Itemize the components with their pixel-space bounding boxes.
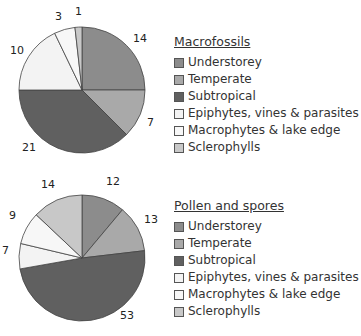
legend-item-macrophytes: Macrophytes & lake edge — [174, 122, 359, 139]
legend-item-epiphytes: Epiphytes, vines & parasites — [174, 105, 359, 122]
slice-label-macrophytes: 9 — [9, 209, 16, 222]
slice-label-understorey: 12 — [106, 175, 120, 188]
legend-item-understorey: Understorey — [174, 54, 359, 71]
slice-label-understorey: 14 — [133, 32, 147, 45]
swatch-icon — [174, 109, 184, 119]
legend-item-temperate: Temperate — [174, 235, 359, 252]
swatch-icon — [174, 58, 184, 68]
swatch-icon — [174, 307, 184, 317]
slice-label-subtropical: 53 — [120, 309, 134, 322]
swatch-icon — [174, 239, 184, 249]
legend-item-subtropical: Subtropical — [174, 88, 359, 105]
slice-label-temperate: 13 — [144, 213, 158, 226]
slice-label-sclerophylls: 1 — [75, 5, 82, 18]
legend-title: Macrofossils — [174, 34, 359, 49]
pollen-spores-legend: Pollen and spores Understorey Temperate … — [174, 198, 359, 320]
pollen-spores-pie — [0, 168, 170, 336]
legend-item-macrophytes: Macrophytes & lake edge — [174, 286, 359, 303]
swatch-icon — [174, 92, 184, 102]
legend-item-temperate: Temperate — [174, 71, 359, 88]
legend-title: Pollen and spores — [174, 198, 359, 213]
slice-label-subtropical: 21 — [22, 141, 36, 154]
slice-label-sclerophylls: 14 — [41, 178, 55, 191]
swatch-icon — [174, 256, 184, 266]
macrofossils-legend: Macrofossils Understorey Temperate Subtr… — [174, 34, 359, 156]
swatch-icon — [174, 222, 184, 232]
slice-label-epiphytes: 10 — [10, 44, 24, 57]
swatch-icon — [174, 290, 184, 300]
legend-item-sclerophylls: Sclerophylls — [174, 303, 359, 320]
pollen-spores-chart: 12 13 53 7 9 14 Pollen and spores Unders… — [0, 168, 361, 336]
slice-label-temperate: 7 — [147, 116, 154, 129]
slice-label-epiphytes: 7 — [2, 244, 9, 257]
macrofossils-chart: 14 7 21 10 3 1 Macrofossils Understorey … — [0, 0, 361, 168]
legend-item-subtropical: Subtropical — [174, 252, 359, 269]
slice-label-macrophytes: 3 — [55, 10, 62, 23]
swatch-icon — [174, 273, 184, 283]
legend-item-epiphytes: Epiphytes, vines & parasites — [174, 269, 359, 286]
swatch-icon — [174, 75, 184, 85]
swatch-icon — [174, 126, 184, 136]
legend-item-understorey: Understorey — [174, 218, 359, 235]
legend-item-sclerophylls: Sclerophylls — [174, 139, 359, 156]
swatch-icon — [174, 143, 184, 153]
